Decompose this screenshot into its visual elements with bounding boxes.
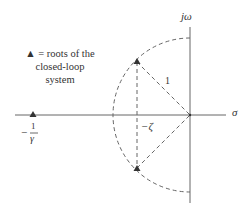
legend: ▲ = roots of the closed-loop system	[14, 47, 106, 86]
pole-denominator: γ	[30, 133, 34, 144]
real-pole-marker	[30, 111, 37, 117]
radius-label: 1	[165, 75, 170, 86]
pole-minus-sign: −	[21, 126, 27, 138]
jomega-label: jω	[181, 10, 192, 22]
legend-line-1: ▲ = roots of the	[14, 47, 106, 60]
legend-line-3: system	[14, 73, 106, 86]
complex-pole-upper-marker	[134, 58, 141, 64]
pole-numerator: 1	[31, 121, 36, 131]
legend-line-2: closed-loop	[14, 60, 106, 73]
s-plane-diagram	[0, 0, 251, 209]
radius-line-upper	[137, 62, 190, 115]
sigma-label: σ	[232, 106, 237, 118]
damping-label: −ζ	[141, 120, 153, 132]
origin-dot	[189, 114, 191, 116]
